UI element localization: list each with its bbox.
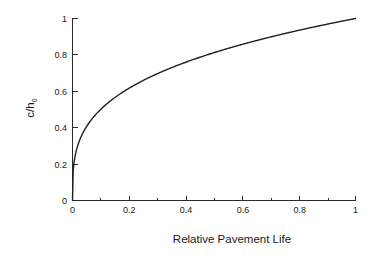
y-tick-label: 1	[62, 14, 67, 24]
y-tick-label: 0	[62, 196, 67, 206]
y-axis-title-subscript: 0	[31, 98, 38, 102]
y-axis-title: c/h0	[24, 98, 38, 117]
x-tick-label: 0.6	[237, 205, 250, 215]
x-tick-label: 0.4	[180, 205, 193, 215]
x-tick-label: 0.8	[293, 205, 306, 215]
chart-canvas: 1 0.8 0.6 0.4 0.2 0 0 0.2 0.4 0.6 0.8 1 …	[0, 0, 376, 263]
x-tick-labels: 0 0.2 0.4 0.6 0.8 1	[70, 205, 358, 215]
y-axis-title-main: c/h	[24, 102, 36, 117]
y-tick-label: 0.2	[54, 160, 67, 170]
x-tick-label: 0	[70, 205, 75, 215]
y-tick-label: 0.4	[54, 123, 67, 133]
chart-figure: 1 0.8 0.6 0.4 0.2 0 0 0.2 0.4 0.6 0.8 1 …	[0, 0, 376, 263]
x-tick-label: 1	[353, 205, 358, 215]
x-axis-title: Relative Pavement Life	[173, 233, 291, 245]
svg-text:c/h0: c/h0	[24, 98, 38, 117]
y-tick-label: 0.6	[54, 87, 67, 97]
x-tick-label: 0.2	[123, 205, 136, 215]
data-curve-crack-depth-ratio	[73, 19, 356, 201]
y-tick-label: 0.8	[54, 50, 67, 60]
y-tick-labels: 1 0.8 0.6 0.4 0.2 0	[54, 14, 67, 207]
